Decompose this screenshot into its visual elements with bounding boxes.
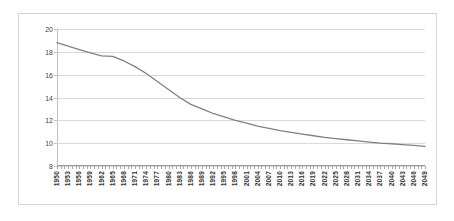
x-tick-mark [131, 166, 132, 169]
x-tick-mark [321, 166, 322, 169]
x-tick-mark [261, 166, 262, 169]
series-line [57, 43, 425, 147]
x-tick-mark [180, 166, 181, 169]
x-tick-label: 2043 [400, 171, 407, 186]
x-tick-mark [347, 166, 348, 169]
x-tick-mark [395, 166, 396, 169]
x-tick-mark [388, 166, 389, 169]
x-tick-mark [336, 166, 337, 169]
x-tick-mark [273, 166, 274, 169]
x-tick-mark [68, 166, 69, 169]
x-tick-mark [109, 166, 110, 169]
x-tick-label: 2025 [333, 171, 340, 186]
x-tick-mark [116, 166, 117, 169]
x-tick-label: 2013 [288, 171, 295, 186]
x-tick-mark [76, 166, 77, 169]
x-tick-mark [384, 166, 385, 169]
x-tick-mark [310, 166, 311, 169]
x-tick-label: 1959 [87, 171, 94, 186]
x-tick-mark [232, 166, 233, 169]
y-tick-label: 20 [45, 26, 53, 33]
x-tick-mark [213, 166, 214, 169]
x-tick-mark [191, 166, 192, 169]
x-tick-label: 1977 [154, 171, 161, 186]
x-tick-mark [176, 166, 177, 169]
x-tick-mark [154, 166, 155, 169]
x-tick-mark [94, 166, 95, 169]
x-tick-label: 2004 [255, 171, 262, 186]
x-tick-mark [105, 166, 106, 169]
x-tick-mark [198, 166, 199, 169]
x-tick-mark [146, 166, 147, 169]
x-tick-mark [79, 166, 80, 169]
x-tick-mark [90, 166, 91, 169]
x-tick-mark [135, 166, 136, 169]
chart-frame: Percentage of World Population 810121416… [18, 13, 437, 205]
x-tick-mark [362, 166, 363, 169]
x-tick-mark [302, 166, 303, 169]
x-tick-mark [195, 166, 196, 169]
x-tick-label: 2028 [344, 171, 351, 186]
x-tick-mark [102, 166, 103, 169]
x-tick-mark [157, 166, 158, 169]
x-tick-label: 1968 [121, 171, 128, 186]
x-tick-mark [243, 166, 244, 169]
x-tick-label: 2016 [299, 171, 306, 186]
x-tick-mark [369, 166, 370, 169]
x-tick-mark [340, 166, 341, 169]
x-tick-mark [254, 166, 255, 169]
x-tick-mark [221, 166, 222, 169]
x-tick-mark [291, 166, 292, 169]
x-tick-mark [169, 166, 170, 169]
x-tick-mark [358, 166, 359, 169]
x-tick-mark [150, 166, 151, 169]
x-tick-mark [113, 166, 114, 169]
y-tick-label: 8 [49, 163, 53, 170]
x-tick-mark [414, 166, 415, 169]
x-tick-mark [399, 166, 400, 169]
x-tick-mark [280, 166, 281, 169]
x-tick-mark [392, 166, 393, 169]
x-tick-label: 1971 [132, 171, 139, 186]
x-tick-mark [202, 166, 203, 169]
x-tick-label: 1965 [110, 171, 117, 186]
x-tick-label: 1986 [188, 171, 195, 186]
y-tick-label: 12 [45, 117, 53, 124]
x-tick-label: 2007 [266, 171, 273, 186]
x-tick-mark [228, 166, 229, 169]
x-tick-label: 1950 [54, 171, 61, 186]
x-tick-label: 1992 [210, 171, 217, 186]
x-tick-mark [98, 166, 99, 169]
x-tick-mark [380, 166, 381, 169]
x-tick-mark [209, 166, 210, 169]
x-tick-label: 2010 [277, 171, 284, 186]
x-tick-mark [57, 166, 58, 169]
x-tick-label: 2040 [389, 171, 396, 186]
x-tick-label: 1974 [143, 171, 150, 186]
x-tick-mark [128, 166, 129, 169]
x-tick-mark [165, 166, 166, 169]
x-tick-mark [61, 166, 62, 169]
x-tick-label: 2037 [377, 171, 384, 186]
x-tick-mark [183, 166, 184, 169]
y-tick-label: 14 [45, 94, 53, 101]
x-tick-mark [421, 166, 422, 169]
x-tick-mark [328, 166, 329, 169]
x-tick-label: 1962 [99, 171, 106, 186]
x-tick-mark [418, 166, 419, 169]
x-tick-label: 1953 [65, 171, 72, 186]
x-tick-label: 1980 [166, 171, 173, 186]
x-tick-mark [325, 166, 326, 169]
x-tick-mark [87, 166, 88, 169]
x-tick-mark [377, 166, 378, 169]
x-tick-mark [83, 166, 84, 169]
x-tick-mark [120, 166, 121, 169]
x-tick-mark [239, 166, 240, 169]
x-tick-mark [373, 166, 374, 169]
x-tick-mark [247, 166, 248, 169]
x-tick-mark [139, 166, 140, 169]
y-tick-label: 16 [45, 71, 53, 78]
x-tick-mark [269, 166, 270, 169]
x-tick-mark [410, 166, 411, 169]
x-tick-label: 2031 [355, 171, 362, 186]
